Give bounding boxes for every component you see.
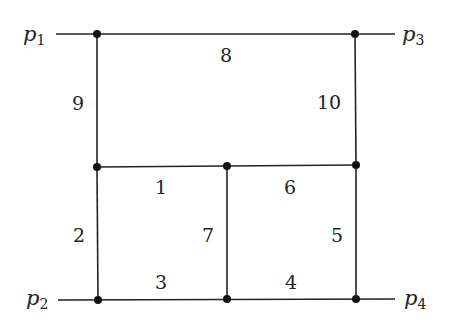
vertex (223, 295, 231, 303)
edge-10 (355, 34, 356, 165)
leg-label-p1: p1 (23, 22, 45, 48)
edge-label-8: 8 (220, 44, 232, 66)
leg-label-p2: p2 (26, 286, 48, 312)
edge-label-5: 5 (331, 224, 343, 246)
edge-label-9: 9 (72, 92, 84, 114)
vertex (352, 161, 360, 169)
edge-label-7: 7 (202, 224, 214, 246)
edge-label-4: 4 (285, 271, 297, 293)
leg-label-p3: p3 (402, 22, 424, 48)
edge-label-2: 2 (73, 224, 85, 246)
vertex (223, 162, 231, 170)
edge-2 (97, 167, 98, 300)
vertex (93, 30, 101, 38)
leg-label-p4: p4 (404, 286, 426, 312)
vertex (351, 30, 359, 38)
vertex (352, 295, 360, 303)
vertex (94, 296, 102, 304)
vertex (93, 163, 101, 171)
diagram-svg: p1 p3 p2 p4 1 2 3 4 5 6 7 8 9 10 (0, 0, 453, 330)
edge-label-10: 10 (317, 91, 341, 113)
edge-label-3: 3 (155, 271, 167, 293)
edge-label-6: 6 (284, 176, 296, 198)
edge-label-1: 1 (155, 176, 167, 198)
feynman-diagram: p1 p3 p2 p4 1 2 3 4 5 6 7 8 9 10 (0, 0, 453, 330)
